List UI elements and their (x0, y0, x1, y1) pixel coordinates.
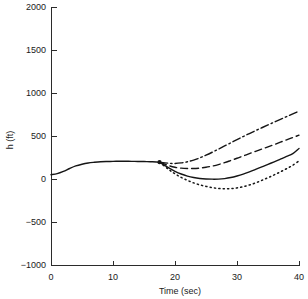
axes-group (52, 7, 300, 266)
solid-trajectory (160, 148, 300, 179)
x-axis-label: Time (sec) (159, 286, 201, 296)
y-tick-label: −1000 (21, 260, 46, 270)
dotted-trajectory (160, 161, 300, 189)
branch-point-marker (157, 160, 161, 164)
y-tick-label: 0 (41, 174, 46, 184)
x-tick-label: 20 (170, 272, 180, 282)
dash-dot-trajectory (160, 111, 300, 163)
y-tick-label: 1000 (26, 88, 46, 98)
data-curves-group (51, 111, 299, 189)
chart-figure: −1000−5000500100015002000 010203040 Time… (0, 0, 308, 299)
x-tick-label: 0 (48, 272, 53, 282)
x-tick-label: 10 (108, 272, 118, 282)
y-tick-label: −500 (26, 217, 46, 227)
x-axis-ticks: 010203040 (48, 261, 304, 283)
x-tick-label: 40 (294, 272, 304, 282)
y-tick-label: 1500 (26, 45, 46, 55)
y-tick-label: 500 (31, 131, 46, 141)
x-tick-label: 30 (232, 272, 242, 282)
y-axis-label: h (ft) (5, 131, 15, 150)
common-trajectory (51, 161, 160, 174)
y-tick-label: 2000 (26, 2, 46, 12)
altitude-vs-time-chart: −1000−5000500100015002000 010203040 Time… (0, 0, 308, 299)
